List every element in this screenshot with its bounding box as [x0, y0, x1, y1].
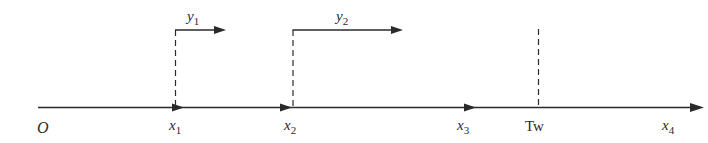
timeline-diagram: O x1 x2 x3 Tw x4 y1 y2 — [0, 0, 708, 143]
y1-arrow-icon — [214, 26, 226, 34]
x1-label: x1 — [168, 117, 181, 136]
axis-arrow-x1-icon — [172, 104, 184, 112]
x4-label: x4 — [661, 117, 675, 136]
y1-label: y1 — [185, 8, 199, 27]
y2-arrow-icon — [391, 26, 403, 34]
x3-label: x3 — [456, 117, 470, 136]
axis-arrow-x3-icon — [464, 104, 476, 112]
x2-label: x2 — [283, 117, 296, 136]
origin-label: O — [37, 119, 49, 136]
axis-end-arrow-icon — [690, 103, 704, 112]
axis-arrow-x2-icon — [280, 104, 292, 112]
y2-label: y2 — [334, 8, 348, 27]
tw-label: Tw — [525, 118, 544, 134]
